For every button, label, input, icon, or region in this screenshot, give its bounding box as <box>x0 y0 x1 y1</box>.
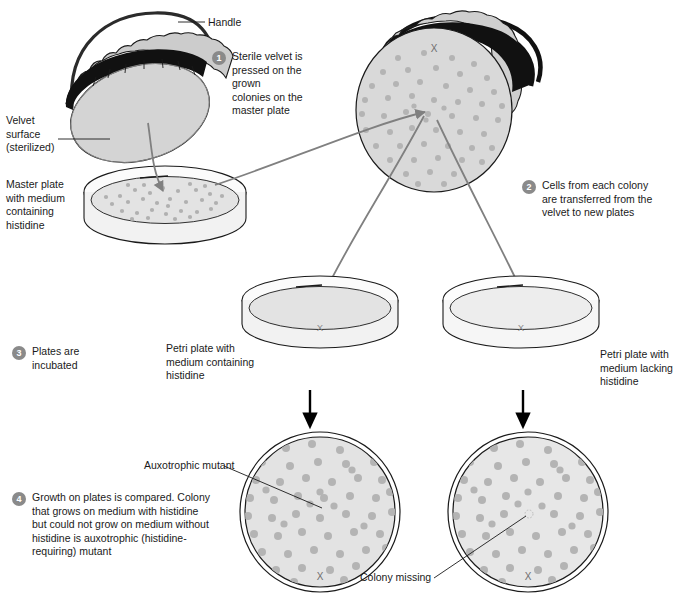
step-1: 1 Sterile velvet is pressed on the grown… <box>212 50 332 118</box>
step-2-badge: 2 <box>522 180 536 194</box>
step-3-badge: 3 <box>12 346 26 360</box>
step-2-text: Cells from each colony are transferred f… <box>542 179 652 220</box>
petri-plate-lacking-histidine-group: X <box>443 276 599 348</box>
velvet-disc-x-mark: X <box>431 43 438 54</box>
result-plate-lacking-histidine-group: X <box>434 432 608 592</box>
petri-plate-with-histidine-group: X <box>242 276 398 348</box>
diagram-canvas: X X X <box>0 0 682 610</box>
petri-lacking-histidine-label: Petri plate with medium lacking histidin… <box>600 348 673 389</box>
auxotrophic-mutant-label: Auxotrophic mutant <box>144 459 234 473</box>
result-left-x-mark: X <box>317 571 324 582</box>
step-3: 3 Plates are incubated <box>12 345 132 372</box>
step-4-badge: 4 <box>12 492 26 506</box>
step-1-text: Sterile velvet is pressed on the grown c… <box>232 50 332 118</box>
step-2: 2 Cells from each colony are transferred… <box>522 179 674 220</box>
velvet-surface-label: Velvet surface (sterilized) <box>6 114 54 155</box>
petri-with-histidine-label: Petri plate with medium containing histi… <box>166 342 254 383</box>
step-4: 4 Growth on plates is compared. Colony t… <box>12 491 244 559</box>
petri-lacking-x-mark: X <box>518 322 525 333</box>
step-1-badge: 1 <box>212 51 226 65</box>
colony-missing-label: Colony missing <box>360 571 431 585</box>
step-4-text: Growth on plates is compared. Colony tha… <box>32 491 210 559</box>
master-plate-label: Master plate with medium containing hist… <box>6 178 65 232</box>
result-plate-histidine-group: X <box>224 432 400 592</box>
petri-histidine-x-mark: X <box>317 322 324 333</box>
step-3-text: Plates are incubated <box>32 345 79 372</box>
result-right-x-mark: X <box>525 571 532 582</box>
handle-label: Handle <box>208 16 241 30</box>
velvet-block-group <box>58 13 233 179</box>
